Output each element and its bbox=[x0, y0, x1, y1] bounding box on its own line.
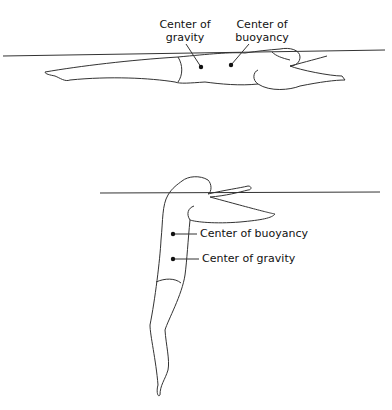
label-line-1: Center of bbox=[222, 18, 302, 31]
buoyancy-diagram: Center of gravity Center of buoyancy Cen… bbox=[0, 0, 392, 410]
label-line-2: buoyancy bbox=[222, 31, 302, 44]
label-line-1: Center of bbox=[150, 18, 220, 31]
label-center-of-buoyancy-bottom: Center of buoyancy bbox=[200, 227, 308, 240]
vertical-swimmer bbox=[150, 177, 275, 396]
label-line-2: gravity bbox=[150, 31, 220, 44]
cob-leader-top bbox=[231, 44, 249, 65]
label-center-of-gravity-top: Center of gravity bbox=[150, 18, 220, 44]
cob-dot-bottom bbox=[171, 232, 175, 236]
cob-dot-top bbox=[229, 63, 233, 67]
label-center-of-gravity-bottom: Center of gravity bbox=[202, 252, 295, 265]
label-center-of-buoyancy-top: Center of buoyancy bbox=[222, 18, 302, 44]
cog-dot-bottom bbox=[171, 257, 175, 261]
cog-dot-top bbox=[199, 65, 203, 69]
diagram-drawing bbox=[0, 0, 392, 410]
